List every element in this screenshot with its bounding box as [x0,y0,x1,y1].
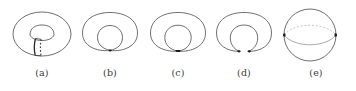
equator-back-dashed-arc [284,25,336,35]
sphere-outline [284,9,336,61]
panel-e: (e) [276,0,356,91]
sphere-with-equator-diagram [276,4,356,66]
panel-b-label: (b) [76,66,144,80]
inner-loop-outline [98,26,123,51]
panel-e-label: (e) [276,66,356,80]
contact-point-dot-left [237,50,240,52]
cut-band-top-cap [36,39,42,40]
panel-c-label: (c) [144,66,212,80]
equator-left-node-dot [283,33,286,36]
torus-inner-hole-bottom-arc [30,35,54,41]
panel-d-label: (d) [210,66,278,80]
outer-loop-outline [83,13,138,51]
torus-inner-hole-top-arc [30,25,54,35]
torus-outer-outline [13,12,71,56]
inner-loop-outline [165,25,191,51]
figure-container: (a) (b) (c) (d) [0,0,356,91]
inner-loop-outline [230,25,257,51]
contact-point-dot [109,49,112,51]
outer-loop-outline [151,13,206,52]
panel-a-label: (a) [0,66,84,80]
panel-c: (c) [144,0,212,91]
pinched-torus-one-point-diagram [76,4,144,66]
contact-point-dot-right [248,50,251,52]
equator-front-solid-arc [284,35,336,45]
pinched-torus-flattening-diagram [144,4,212,66]
panel-a: (a) [0,0,84,91]
cut-dashed-line [40,39,41,56]
panel-d: (d) [210,0,278,91]
torus-with-cut-diagram [0,4,84,66]
equator-right-node-dot [334,33,337,36]
outer-loop-outline [217,13,272,52]
panel-b: (b) [76,0,144,91]
pinched-torus-two-points-diagram [210,4,278,66]
cut-solid-line [34,39,35,56]
